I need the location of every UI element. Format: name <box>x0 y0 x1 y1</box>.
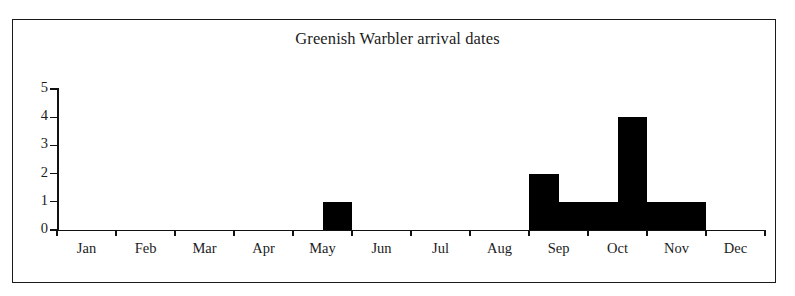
x-axis-tick <box>410 230 411 236</box>
x-axis-tick-label: Jan <box>57 240 117 257</box>
x-axis-tick <box>56 230 57 236</box>
x-axis-tick-label: Oct <box>588 240 648 257</box>
x-axis-tick <box>292 230 293 236</box>
x-axis-tick <box>351 230 352 236</box>
y-axis-tick <box>50 117 57 118</box>
plot-area: 012345 JanFebMarAprMayJunJulAugSepOctNov… <box>0 0 795 296</box>
y-axis-tick-label: 5 <box>26 80 48 95</box>
bar <box>677 202 707 230</box>
x-axis-tick-label: Feb <box>116 240 176 257</box>
y-axis-tick <box>50 88 57 89</box>
y-axis-tick <box>50 173 57 174</box>
y-axis-tick <box>50 145 57 146</box>
x-axis-tick-label: Jun <box>352 240 412 257</box>
bar <box>618 117 648 230</box>
x-axis-tick <box>764 230 765 236</box>
x-axis-tick-label: Sep <box>529 240 589 257</box>
x-axis-tick-label: Aug <box>470 240 530 257</box>
y-axis-line <box>57 88 59 231</box>
y-axis-tick <box>50 201 57 202</box>
bar <box>323 202 353 230</box>
x-axis-tick <box>705 230 706 236</box>
x-axis-tick-label: Apr <box>234 240 294 257</box>
x-axis-tick <box>233 230 234 236</box>
x-axis-tick <box>115 230 116 236</box>
x-axis-tick-label: May <box>293 240 353 257</box>
y-axis-tick-label: 3 <box>26 136 48 151</box>
bar <box>647 202 677 230</box>
figure-container: Greenish Warbler arrival dates 012345 Ja… <box>0 0 795 296</box>
x-axis-tick-label: Dec <box>706 240 766 257</box>
x-axis-tick <box>646 230 647 236</box>
bar <box>559 202 589 230</box>
y-axis-tick-label: 4 <box>26 108 48 123</box>
x-axis-tick <box>174 230 175 236</box>
x-axis-tick-label: Jul <box>411 240 471 257</box>
y-axis-tick-label: 2 <box>26 165 48 180</box>
x-axis-tick-label: Mar <box>175 240 235 257</box>
bar <box>588 202 618 230</box>
y-axis-tick-label: 0 <box>26 221 48 236</box>
bar <box>529 174 559 230</box>
x-axis-tick <box>469 230 470 236</box>
y-axis-tick-label: 1 <box>26 193 48 208</box>
x-axis-tick-label: Nov <box>647 240 707 257</box>
x-axis-tick <box>587 230 588 236</box>
x-axis-tick <box>528 230 529 236</box>
